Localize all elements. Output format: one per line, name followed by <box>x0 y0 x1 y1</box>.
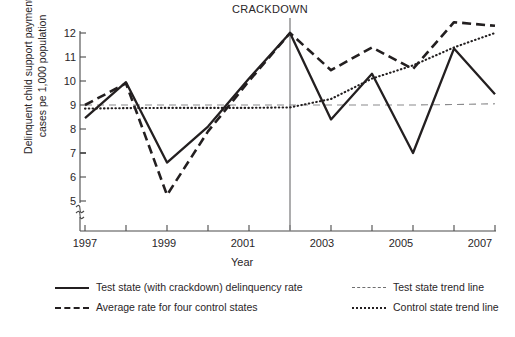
chart-figure: Delinquent child support payment cases p… <box>0 0 515 337</box>
legend-item-test-trend: Test state trend line <box>352 281 484 293</box>
thin-dashed-line-swatch-icon <box>352 282 386 292</box>
axis-lines <box>76 31 496 231</box>
legend-item-control-trend: Control state trend line <box>352 301 499 313</box>
chart-legend: Test state (with crackdown) delinquency … <box>0 277 515 327</box>
legend-label-test-state: Test state (with crackdown) delinquency … <box>96 281 303 293</box>
legend-label-test-trend: Test state trend line <box>393 281 484 293</box>
legend-label-control-trend: Control state trend line <box>393 301 499 313</box>
legend-item-test-state: Test state (with crackdown) delinquency … <box>55 281 303 293</box>
legend-item-control-average: Average rate for four control states <box>55 301 257 313</box>
solid-line-swatch-icon <box>55 282 89 292</box>
dashed-line-swatch-icon <box>55 302 89 312</box>
dotted-line-swatch-icon <box>352 302 386 312</box>
legend-label-control-average: Average rate for four control states <box>96 301 257 313</box>
